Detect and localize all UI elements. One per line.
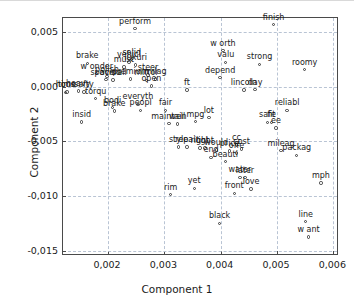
- scatter-point[interactable]: [111, 78, 114, 81]
- scatter-point-label: premium: [113, 68, 149, 76]
- scatter-point[interactable]: [238, 176, 241, 179]
- scatter-point[interactable]: [80, 120, 83, 123]
- scatter-point[interactable]: [198, 146, 201, 149]
- scatter-point-label: time: [58, 81, 76, 89]
- scatter-point[interactable]: [303, 68, 306, 71]
- scatter-point[interactable]: [134, 63, 137, 66]
- scatter-point[interactable]: [146, 73, 149, 76]
- scatter-point[interactable]: [65, 90, 68, 93]
- scatter-point[interactable]: [77, 89, 80, 92]
- scatter-point[interactable]: [307, 235, 310, 238]
- scatter-point[interactable]: [185, 88, 188, 91]
- scatter-point[interactable]: [133, 27, 136, 30]
- scatter-point[interactable]: [136, 103, 139, 106]
- scatter-point[interactable]: [274, 126, 277, 129]
- scatter-point[interactable]: [203, 146, 206, 149]
- scatter-point-label: brake: [103, 100, 126, 108]
- y-gridline: [63, 141, 337, 142]
- y-tick: [62, 251, 66, 252]
- scatter-point[interactable]: [233, 192, 236, 195]
- scatter-point[interactable]: [304, 220, 307, 223]
- x-tick: [277, 251, 278, 255]
- scatter-point[interactable]: [258, 63, 261, 66]
- scatter-point[interactable]: [253, 88, 256, 91]
- scatter-point[interactable]: [285, 109, 288, 112]
- scatter-point[interactable]: [279, 149, 282, 152]
- scatter-point[interactable]: [240, 147, 243, 150]
- scatter-point-label: front: [225, 182, 244, 190]
- scatter-point[interactable]: [209, 156, 212, 159]
- scatter-point[interactable]: [95, 72, 98, 75]
- x-tick: [108, 251, 109, 255]
- scatter-point-label: would: [204, 139, 228, 147]
- scatter-point[interactable]: [207, 116, 210, 119]
- x-tick: [164, 251, 165, 255]
- scatter-point-label: ft: [184, 79, 190, 87]
- scatter-point[interactable]: [129, 77, 132, 80]
- top-divider: [0, 0, 354, 1]
- scatter-point[interactable]: [242, 88, 245, 91]
- scatter-point[interactable]: [122, 65, 125, 68]
- scatter-point-label: polish: [95, 66, 119, 74]
- scatter-point-label: love: [243, 178, 260, 186]
- scatter-point-label: day: [248, 79, 263, 87]
- scatter-point-label: perform: [119, 18, 151, 26]
- scatter-point[interactable]: [193, 187, 196, 190]
- scatter-point[interactable]: [145, 79, 148, 82]
- scatter-point-label: bodi: [104, 97, 121, 105]
- scatter-point[interactable]: [94, 97, 97, 100]
- scatter-point-label: fair: [159, 99, 172, 107]
- scatter-point[interactable]: [235, 143, 238, 146]
- scatter-point[interactable]: [104, 78, 107, 81]
- scatter-point-label: peopl: [130, 99, 152, 107]
- scatter-point[interactable]: [215, 148, 218, 151]
- y-gridline: [63, 196, 337, 197]
- scatter-point[interactable]: [164, 109, 167, 112]
- x-tick-label: 0,006: [319, 259, 346, 270]
- scatter-point[interactable]: [185, 145, 188, 148]
- scatter-point[interactable]: [243, 176, 246, 179]
- scatter-point[interactable]: [319, 181, 322, 184]
- scatter-point[interactable]: [177, 145, 180, 148]
- scatter-point[interactable]: [194, 120, 197, 123]
- scatter-point-label: packag: [282, 144, 311, 152]
- scatter-point[interactable]: [150, 84, 153, 87]
- scatter-point[interactable]: [235, 151, 238, 154]
- scatter-point[interactable]: [249, 187, 252, 190]
- scatter-point[interactable]: [221, 49, 224, 52]
- scatter-point[interactable]: [228, 149, 231, 152]
- scatter-point[interactable]: [82, 90, 85, 93]
- scatter-point-label: finish: [263, 14, 285, 22]
- y-tick-label: 0,005: [31, 26, 58, 37]
- scatter-point-label: rim: [164, 184, 177, 192]
- scatter-point-label: repair: [175, 136, 199, 144]
- scatter-point[interactable]: [266, 121, 269, 124]
- x-tick: [333, 251, 334, 255]
- x-tick-label: 0,004: [206, 259, 233, 270]
- scatter-point-label: style: [169, 136, 188, 144]
- scatter-point[interactable]: [295, 154, 298, 157]
- scatter-point[interactable]: [127, 60, 130, 63]
- scatter-point[interactable]: [167, 122, 170, 125]
- chart-canvas: performfinishw orthvalustrongroomysolidl…: [0, 0, 354, 305]
- scatter-point[interactable]: [272, 23, 275, 26]
- scatter-point[interactable]: [113, 109, 116, 112]
- scatter-point-label: roomy: [292, 59, 317, 67]
- x-tick-label: 0,005: [262, 259, 289, 270]
- x-gridline: [277, 18, 278, 254]
- y-gridline: [63, 32, 337, 33]
- scatter-point[interactable]: [224, 160, 227, 163]
- scatter-point[interactable]: [224, 61, 227, 64]
- x-tick-label: 0,003: [150, 259, 177, 270]
- scatter-point[interactable]: [86, 62, 89, 65]
- scatter-point-label: reliabl: [275, 99, 300, 107]
- scatter-point-label: strong: [247, 53, 272, 61]
- scatter-point-label: maintain: [151, 113, 186, 121]
- scatter-point[interactable]: [176, 122, 179, 125]
- y-tick-label: -0,010: [27, 189, 58, 200]
- scatter-point[interactable]: [270, 121, 273, 124]
- scatter-point[interactable]: [154, 77, 157, 80]
- scatter-point-label: insid: [72, 111, 91, 119]
- y-tick: [62, 141, 66, 142]
- scatter-point[interactable]: [139, 109, 142, 112]
